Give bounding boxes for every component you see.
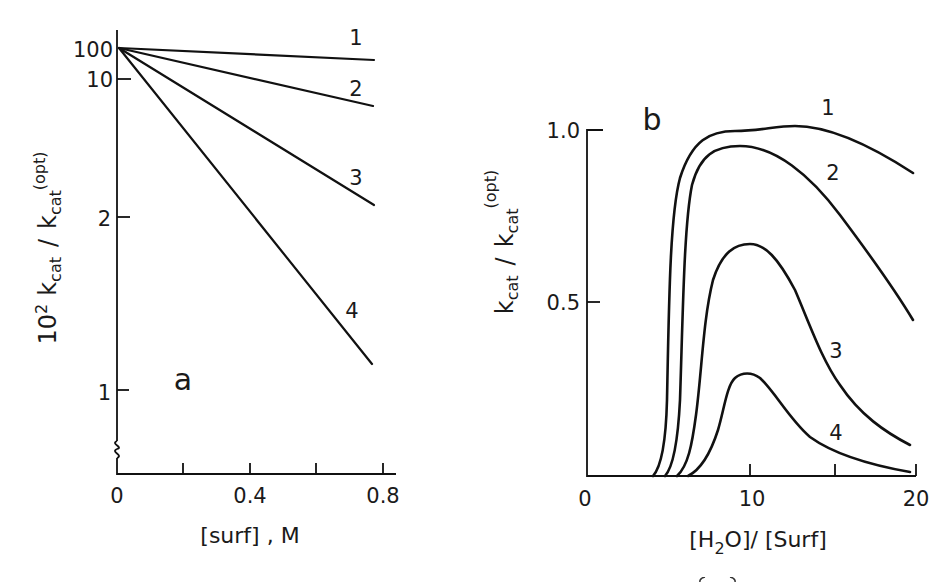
panel-a-x-label: [surf] , M: [200, 523, 299, 548]
panel-b-curve-label-3: 3: [829, 339, 842, 363]
panel-a-curve-label-3: 3: [349, 166, 362, 190]
y-tick-label-2: 2: [98, 207, 111, 231]
panel-a-curve-label-2: 2: [349, 77, 362, 101]
figure-caption-fragment: [0, 572, 950, 582]
panel-b: 1.0 0.5 0 10 20 [H2O]/ [Surf] kcat/kcat(…: [481, 96, 929, 558]
panel-a-letter: a: [174, 362, 192, 397]
y-tick-label-1: 1: [98, 381, 111, 405]
panel-b-letter: b: [642, 102, 661, 137]
x-tick-label-0.4: 0.4: [233, 484, 266, 508]
panel-a: 100 10 2 1 0 0.4 0.8 [surf] , M 102kcat/…: [30, 26, 400, 548]
panel-b-x-ticks: [750, 464, 916, 476]
x-tick-label-10: 10: [739, 487, 766, 511]
panel-a-line-4: [119, 48, 372, 364]
caption-fragment-strokes: [0, 577, 950, 582]
y-tick-label-10: 10: [86, 68, 113, 92]
axis-break-icon: [115, 441, 119, 458]
panel-a-x-axis: [117, 458, 396, 474]
x-tick-label-20: 20: [903, 487, 930, 511]
y-tick-label-0.5: 0.5: [547, 291, 580, 315]
panel-a-y-label: 102kcat/kcat(opt): [30, 151, 65, 344]
y-tick-label-1.0: 1.0: [547, 119, 580, 143]
x-tick-label-0: 0: [110, 484, 123, 508]
panel-b-axes: [587, 130, 916, 476]
panel-a-curve-label-1: 1: [349, 26, 362, 50]
y-tick-label-100: 100: [73, 38, 113, 62]
panel-b-x-label: [H2O]/ [Surf]: [689, 527, 827, 558]
x-tick-label-0: 0: [578, 487, 591, 511]
panel-b-curve-label-4: 4: [829, 421, 842, 445]
panel-b-y-label: kcat/kcat(opt): [481, 170, 522, 314]
panel-b-curve-3: [677, 244, 910, 476]
panel-a-line-3: [119, 48, 374, 205]
panel-a-line-1: [119, 48, 374, 60]
panel-a-x-ticks: [183, 463, 383, 474]
panel-b-curve-label-1: 1: [821, 96, 834, 120]
x-tick-label-0.8: 0.8: [366, 484, 399, 508]
panel-a-curve-label-4: 4: [345, 299, 358, 323]
panel-b-curve-label-2: 2: [826, 161, 839, 185]
panel-b-curve-2: [665, 146, 913, 476]
